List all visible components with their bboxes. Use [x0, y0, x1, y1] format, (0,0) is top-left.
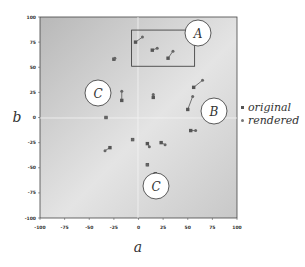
x-tick-label: -100 [34, 225, 45, 230]
data-pair [152, 93, 155, 99]
rendered-point [152, 93, 155, 96]
rendered-point [194, 129, 197, 132]
legend-item-original: original [241, 101, 299, 114]
rendered-point [191, 95, 194, 98]
svg-text:C: C [93, 87, 102, 101]
svg-text:A: A [193, 27, 203, 41]
data-pair [131, 138, 134, 141]
rendered-point [104, 116, 107, 119]
scatter-chart: 1007550250-25-50-75-100 -100-75-50-25025… [0, 0, 305, 267]
legend-label-original: original [248, 101, 291, 114]
y-tick-label: 50 [30, 65, 36, 70]
x-tick-label: -25 [110, 225, 118, 230]
rendered-point [141, 36, 144, 39]
original-point [166, 57, 169, 60]
legend-label-rendered: rendered [248, 114, 299, 127]
original-point [152, 96, 155, 99]
data-pair [104, 116, 107, 119]
x-tick-label: -50 [85, 225, 93, 230]
rendered-point [113, 57, 116, 60]
rendered-point [104, 149, 107, 152]
rendered-point [120, 90, 123, 93]
y-axis-ticks: 1007550250-25-50-75-100 [25, 15, 40, 221]
original-point [192, 86, 195, 89]
original-point [159, 141, 162, 144]
rendered-point [164, 143, 167, 146]
legend-item-rendered: rendered [241, 114, 299, 127]
svg-text:B: B [209, 105, 219, 119]
rendered-point [171, 50, 174, 53]
y-tick-label: -75 [28, 190, 36, 195]
original-point [120, 99, 123, 102]
svg-text:C: C [151, 180, 160, 194]
x-tick-label: 0 [137, 225, 140, 230]
y-tick-label: -50 [28, 165, 36, 170]
x-axis-ticks: -100-75-50-250255075100 [34, 218, 241, 230]
y-axis-label: b [13, 109, 22, 125]
legend: original rendered [241, 101, 299, 127]
y-tick-label: -100 [25, 216, 36, 221]
annotation-circle-a: A [185, 20, 211, 46]
rendered-point [131, 138, 134, 141]
annotation-circle-b: B [201, 98, 227, 124]
original-point [151, 48, 154, 51]
original-point [189, 129, 192, 132]
y-tick-label: 75 [30, 40, 36, 45]
y-tick-label: 0 [33, 115, 36, 120]
annotation-circle-c-bottom: C [143, 173, 169, 199]
original-point [134, 40, 137, 43]
original-point [146, 142, 149, 145]
data-pair [146, 163, 149, 166]
x-tick-label: 25 [160, 225, 166, 230]
rendered-point [156, 47, 159, 50]
y-tick-label: 25 [30, 90, 36, 95]
rendered-point [201, 79, 204, 82]
y-tick-label: -25 [28, 140, 36, 145]
x-tick-label: 100 [232, 225, 241, 230]
annotation-circle-c-left: C [85, 80, 111, 106]
original-point [186, 108, 189, 111]
x-axis-label: a [134, 239, 142, 255]
dot-marker-icon [241, 119, 244, 122]
x-tick-label: -75 [61, 225, 69, 230]
square-marker-icon [241, 106, 244, 109]
rendered-point [146, 163, 149, 166]
x-tick-label: 75 [209, 225, 215, 230]
x-tick-label: 50 [185, 225, 191, 230]
y-tick-label: 100 [27, 15, 36, 20]
original-point [108, 146, 111, 149]
rendered-point [148, 145, 151, 148]
